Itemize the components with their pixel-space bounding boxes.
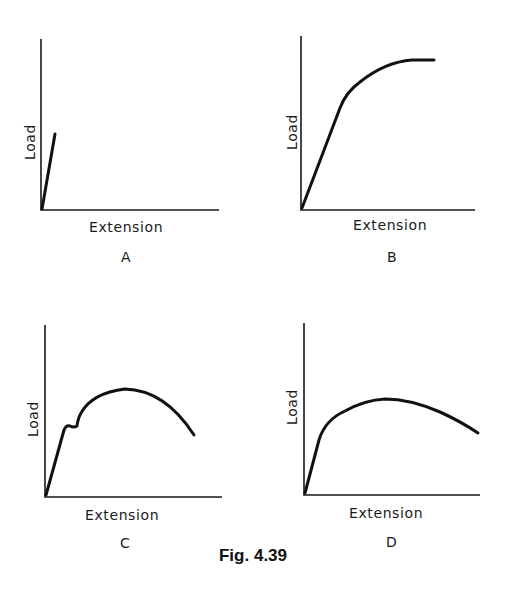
panel-c-axes — [45, 325, 222, 497]
panel-c-curve — [46, 389, 194, 495]
panel-b-curve — [302, 60, 434, 208]
panel-d-curve — [305, 399, 478, 493]
panel-a-letter: A — [121, 249, 131, 265]
panel-d: Load Extension D — [284, 323, 480, 550]
panel-a-axes — [41, 39, 219, 210]
panel-c-y-label: Load — [25, 401, 41, 437]
panel-c-x-label: Extension — [85, 507, 159, 523]
panel-d-x-label: Extension — [349, 505, 423, 521]
panel-a: Load Extension A — [22, 39, 219, 265]
panel-d-axes — [304, 323, 480, 495]
figure-caption: Fig. 4.39 — [0, 546, 506, 566]
panel-c: Load Extension C — [25, 325, 222, 551]
panel-a-curve — [42, 134, 55, 209]
panel-b-letter: B — [387, 249, 397, 265]
panel-a-x-label: Extension — [89, 219, 163, 235]
panel-a-y-label: Load — [22, 124, 38, 160]
panel-b-y-label: Load — [284, 114, 300, 150]
panel-b-x-label: Extension — [353, 217, 427, 233]
panel-b: Load Extension B — [284, 36, 475, 265]
figure-canvas: Load Extension A Load Extension B Load E… — [0, 0, 506, 595]
panel-b-axes — [301, 36, 475, 210]
panel-d-y-label: Load — [284, 389, 300, 425]
